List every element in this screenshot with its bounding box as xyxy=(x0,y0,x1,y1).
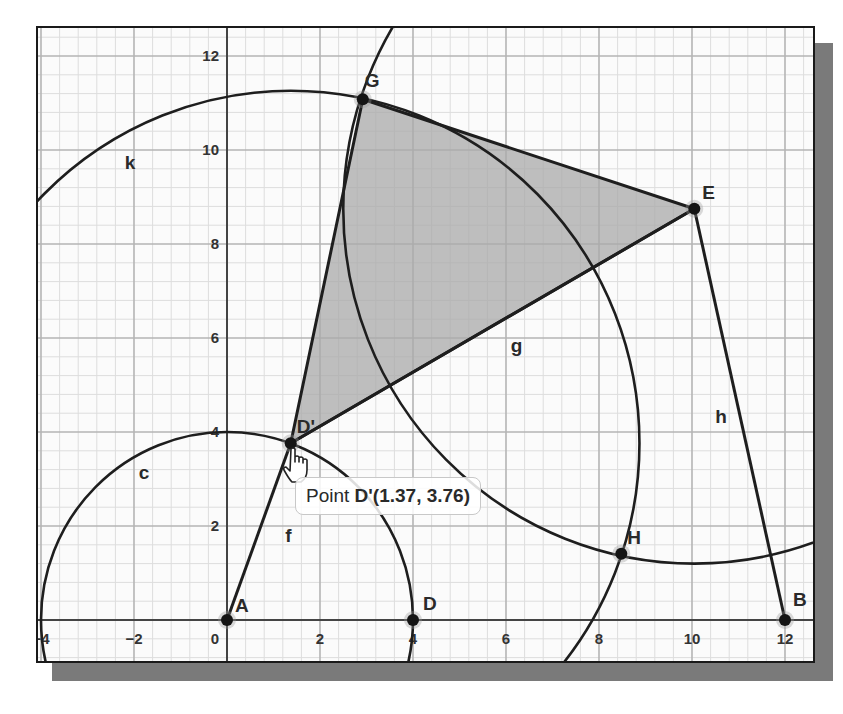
x-tick-label: −2 xyxy=(125,630,142,647)
x-tick-label: 12 xyxy=(777,630,794,647)
point-B[interactable] xyxy=(779,614,791,626)
y-tick-label: 10 xyxy=(202,141,219,158)
circle-label-k: k xyxy=(125,152,136,173)
point-E[interactable] xyxy=(688,203,700,215)
point-label-A: A xyxy=(235,595,249,616)
y-tick-label: 12 xyxy=(202,47,219,64)
point-D[interactable] xyxy=(407,614,419,626)
y-tick-label: 8 xyxy=(211,235,219,252)
polygon-layer[interactable] xyxy=(291,99,695,443)
geometry-canvas[interactable]: −4−202468101224681012 ckfghABDD'EGH xyxy=(38,28,815,663)
segment-label-g: g xyxy=(511,335,523,356)
point-label-E: E xyxy=(702,182,715,203)
point-label-D: D xyxy=(423,593,437,614)
segment-h[interactable] xyxy=(694,209,785,620)
point-label-B: B xyxy=(793,589,807,610)
x-tick-label: 8 xyxy=(595,630,603,647)
triangle-polygon[interactable] xyxy=(291,99,695,443)
x-tick-label: −4 xyxy=(38,630,50,647)
segment-label-h: h xyxy=(715,406,727,427)
point-H[interactable] xyxy=(615,548,627,560)
tooltip-prefix: Point xyxy=(306,485,355,506)
graphics-view[interactable]: −4−202468101224681012 ckfghABDD'EGH Poin… xyxy=(36,26,815,663)
point-label-D-prime: D' xyxy=(297,416,315,437)
y-tick-label: 2 xyxy=(211,517,219,534)
point-A[interactable] xyxy=(221,614,233,626)
point-tooltip: Point D'(1.37, 3.76) xyxy=(295,477,481,515)
tooltip-value: D'(1.37, 3.76) xyxy=(355,485,470,506)
x-tick-label: 0 xyxy=(211,630,219,647)
y-tick-label: 6 xyxy=(211,329,219,346)
x-tick-label: 10 xyxy=(684,630,701,647)
point-label-H: H xyxy=(627,527,641,548)
circle-label-c: c xyxy=(139,462,150,483)
x-tick-label: 6 xyxy=(502,630,510,647)
point-label-G: G xyxy=(365,70,380,91)
segment-label-f: f xyxy=(285,525,292,546)
point-G[interactable] xyxy=(357,93,369,105)
x-tick-label: 2 xyxy=(316,630,324,647)
